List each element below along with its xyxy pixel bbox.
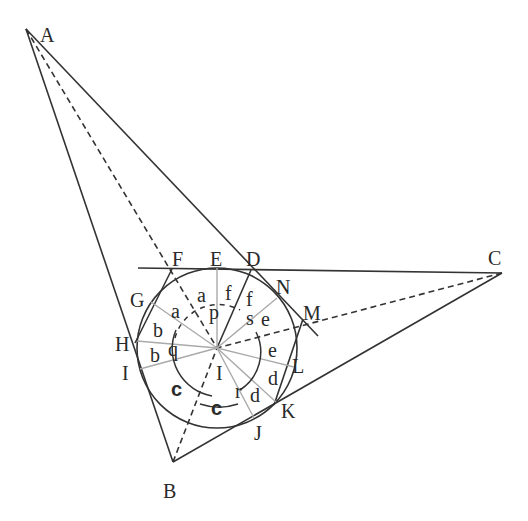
angle-label-b2: b bbox=[150, 344, 160, 366]
angle-label-p: p bbox=[209, 301, 219, 324]
angle-label-s: s bbox=[246, 307, 254, 329]
point-label-incenter-I: I bbox=[216, 362, 223, 384]
point-label-F: F bbox=[172, 248, 183, 270]
point-label-I-side: I bbox=[122, 362, 129, 384]
point-label-B: B bbox=[163, 480, 176, 502]
point-label-C: C bbox=[488, 247, 501, 269]
angle-label-d2: d bbox=[250, 384, 260, 406]
point-label-D: D bbox=[246, 248, 260, 270]
point-label-N: N bbox=[276, 276, 290, 298]
arc-inner-e bbox=[240, 332, 261, 390]
point-label-G: G bbox=[130, 289, 144, 311]
angle-label-e1: e bbox=[261, 308, 270, 330]
angle-label-a1: a bbox=[197, 284, 206, 306]
angle-label-r: r bbox=[235, 380, 242, 402]
point-label-E: E bbox=[210, 248, 222, 270]
point-label-K: K bbox=[281, 400, 296, 422]
geometry-diagram: A B C D E F G H I J K L M N I a a f f p … bbox=[0, 0, 528, 521]
point-label-J: J bbox=[254, 422, 262, 444]
point-label-L: L bbox=[292, 355, 304, 377]
side-AB bbox=[26, 29, 173, 462]
angle-label-c1: c bbox=[171, 378, 182, 400]
side-AC-segment bbox=[26, 29, 318, 336]
angle-label-d1: d bbox=[268, 367, 278, 389]
angle-label-b1: b bbox=[153, 319, 163, 341]
angle-label-e2: e bbox=[268, 339, 277, 361]
angle-label-f1: f bbox=[225, 282, 232, 304]
angle-label-a2: a bbox=[171, 300, 180, 322]
point-label-H: H bbox=[115, 333, 129, 355]
bisector-A bbox=[26, 29, 217, 348]
angle-label-q: q bbox=[168, 338, 178, 361]
angle-label-c2: c bbox=[211, 397, 222, 419]
point-label-A: A bbox=[40, 24, 55, 46]
point-label-M: M bbox=[303, 302, 321, 324]
bisector-C bbox=[217, 273, 502, 348]
